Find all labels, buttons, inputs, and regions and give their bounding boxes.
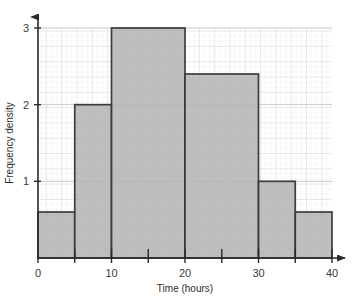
x-tick-label-0: 0 [35,267,41,279]
y-tick-label-2: 2 [23,99,29,111]
x-tick-label-40: 40 [326,267,338,279]
bar-35-40 [295,212,332,258]
histogram-chart: 3 2 1 0 10 20 30 40 Time (hours) Frequen… [0,0,354,296]
x-axis-title: Time (hours) [157,283,213,294]
bar-5-10 [75,105,112,258]
x-tick-label-20: 20 [179,267,191,279]
chart-canvas: 3 2 1 0 10 20 30 40 Time (hours) Frequen… [0,0,354,296]
bar-30-35 [259,181,296,258]
y-axis-title: Frequency density [4,102,15,184]
bar-20-30 [185,74,259,258]
y-tick-label-3: 3 [23,22,29,34]
x-tick-label-30: 30 [252,267,264,279]
bar-0-5 [38,212,75,258]
y-tick-label-1: 1 [23,175,29,187]
bar-10-20 [112,28,186,258]
x-tick-label-10: 10 [105,267,117,279]
